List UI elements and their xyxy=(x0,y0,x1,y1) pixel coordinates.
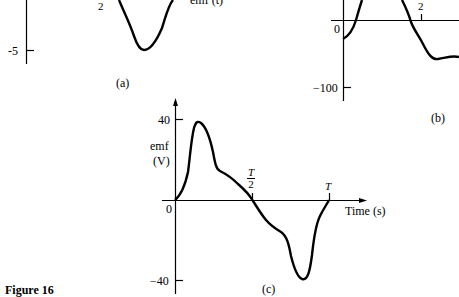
panel-c-y-axis-arrow xyxy=(173,98,178,106)
panel-b-plot xyxy=(331,0,459,101)
panel-c-ylabel-line2: (V) xyxy=(153,155,170,167)
panel-b-caption: (b) xyxy=(431,112,445,124)
panel-b-curve-right xyxy=(402,0,459,59)
panel-a-x-tick-label: 2 xyxy=(98,0,104,12)
panel-c-period-label: T xyxy=(325,180,331,192)
panel-b-y-tick-label: −100 xyxy=(313,82,338,94)
panel-b-curve-left xyxy=(343,0,362,39)
panel-b-origin-label: 0 xyxy=(334,23,340,35)
panel-a-y-tick-label: -5 xyxy=(8,45,18,57)
panel-a-curve-label: emf (t) xyxy=(190,0,223,6)
panel-a-curve xyxy=(119,0,173,50)
figure-canvas xyxy=(0,0,459,297)
panel-c-caption: (c) xyxy=(262,283,275,295)
panel-c-y-tick-neg40-label: −40 xyxy=(150,275,169,287)
panel-c-xlabel: Time (s) xyxy=(345,205,386,217)
panel-c-half-period-label: T 2 xyxy=(247,167,255,190)
panel-c-origin-label: 0 xyxy=(166,203,172,215)
panel-c-ylabel-line1: emf xyxy=(150,140,169,152)
figure-label: Figure 16 xyxy=(5,284,54,296)
panel-c-x-axis-arrow xyxy=(359,198,367,203)
panel-c-plot xyxy=(162,98,367,294)
panel-b-x-tick-label: 2 xyxy=(418,0,424,12)
panel-c-y-tick-40-label: 40 xyxy=(158,114,170,126)
panel-a-caption: (a) xyxy=(116,77,129,89)
half-period-denominator: 2 xyxy=(247,179,255,190)
